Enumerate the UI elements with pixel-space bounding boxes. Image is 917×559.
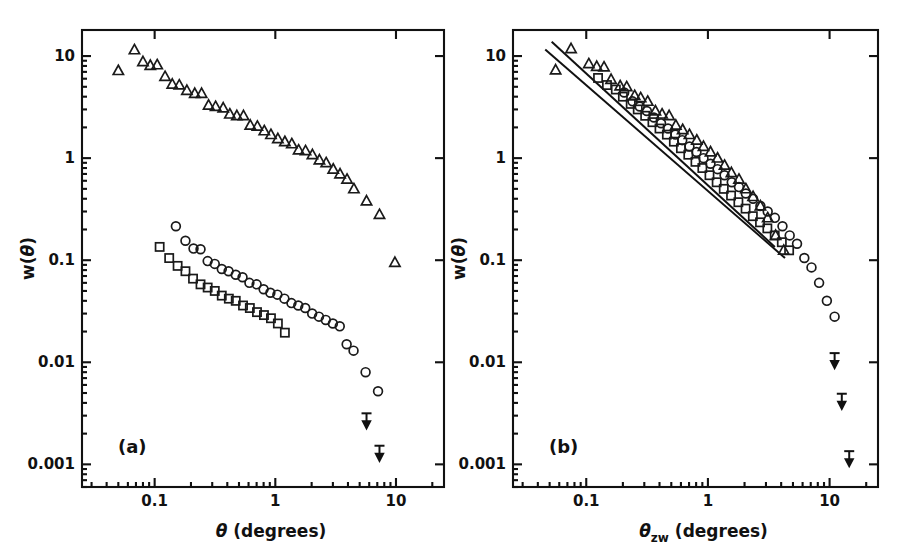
series-triangles (113, 44, 400, 266)
x-axis-label: θ (degrees) (216, 521, 327, 541)
data-point-square (156, 243, 164, 251)
data-point-square (174, 262, 182, 270)
figure-container: 0.11101010.10.010.001(a)w(θ)θ (degrees)0… (0, 0, 917, 559)
x-tick-label: 1 (703, 492, 713, 510)
plot-frame (513, 30, 878, 487)
upper-limit-head (363, 421, 370, 428)
panel-label: (a) (118, 436, 147, 457)
y-tick-label: 10 (54, 47, 75, 65)
y-tick-label: 0.001 (459, 455, 506, 473)
panel-a: 0.11101010.10.010.001(a)w(θ)θ (degrees) (18, 30, 444, 541)
data-point-circle (749, 194, 758, 203)
data-point-triangle (113, 65, 123, 74)
lower-fit-line (545, 49, 785, 258)
series-upper_limits (362, 413, 385, 460)
y-tick-label: 1 (496, 149, 506, 167)
x-tick-label: 10 (819, 492, 840, 510)
data-point-circle (822, 296, 831, 305)
x-axis-label-units: (degrees) (227, 521, 326, 541)
data-point-triangle (550, 65, 560, 74)
upper-limit-head (376, 454, 383, 461)
panel-b: 0.11101010.10.010.001(b)w(θ)θzw (degrees… (449, 30, 878, 545)
series-squares (156, 243, 289, 337)
y-axis-label: w(θ) (449, 237, 469, 280)
data-point-triangle (349, 183, 359, 192)
series-upper_limits (830, 353, 855, 466)
x-tick-label: 0.1 (573, 492, 600, 510)
data-point-circle (361, 368, 370, 377)
upper-limit-arrow (362, 413, 372, 428)
x-axis-label-subscript: zw (651, 531, 669, 545)
scientific-figure: 0.11101010.10.010.001(a)w(θ)θ (degrees)0… (0, 0, 917, 559)
data-point-circle (778, 222, 787, 231)
y-tick-label: 0.1 (479, 251, 506, 269)
data-point-circle (374, 387, 383, 396)
upper-limit-head (831, 361, 838, 368)
data-point-circle (171, 222, 180, 231)
data-point-square (281, 329, 289, 337)
data-point-circle (815, 278, 824, 287)
data-point-triangle (390, 257, 400, 266)
data-point-circle (678, 136, 687, 145)
data-point-circle (800, 254, 809, 263)
data-point-triangle (152, 59, 162, 68)
data-point-triangle (160, 71, 170, 80)
x-tick-label: 1 (270, 492, 280, 510)
plot-frame (82, 30, 444, 487)
data-point-square (165, 254, 173, 262)
x-axis-label-symbol: θ (216, 521, 228, 541)
data-point-triangle (138, 56, 148, 65)
data-point-circle (349, 346, 358, 355)
data-point-circle (807, 263, 816, 272)
y-tick-label: 0.01 (38, 353, 75, 371)
data-point-triangle (361, 196, 371, 205)
data-point-triangle (129, 44, 139, 53)
panel-label: (b) (549, 436, 578, 457)
y-tick-label: 1 (65, 149, 75, 167)
x-axis-label: θzw (degrees) (639, 521, 768, 545)
upper-limit-arrow (830, 353, 840, 368)
series-squares (594, 74, 793, 255)
y-axis-label-symbol: θ (449, 244, 469, 256)
upper-limit-head (846, 459, 853, 466)
upper-limit-arrow (844, 451, 854, 466)
data-point-circle (830, 312, 839, 321)
y-axis-label: w(θ) (18, 237, 38, 280)
series-triangles (550, 43, 788, 254)
data-point-triangle (566, 43, 576, 52)
y-tick-label: 10 (485, 47, 506, 65)
data-point-triangle (374, 209, 384, 218)
upper-limit-head (838, 402, 845, 409)
y-axis-label-symbol: θ (18, 244, 38, 256)
upper-fit-line (552, 42, 775, 247)
y-tick-label: 0.1 (48, 251, 75, 269)
upper-limit-arrow (374, 446, 384, 461)
x-tick-label: 10 (386, 492, 407, 510)
y-tick-label: 0.01 (469, 353, 506, 371)
y-tick-label: 0.001 (28, 455, 75, 473)
upper-limit-arrow (837, 394, 847, 409)
x-axis-label-symbol: θ (639, 521, 651, 541)
data-point-circle (181, 236, 190, 245)
data-point-triangle (584, 58, 594, 67)
series-circles (171, 222, 382, 396)
data-point-circle (770, 213, 779, 222)
x-axis-label-units: (degrees) (669, 521, 768, 541)
x-tick-label: 0.1 (141, 492, 168, 510)
